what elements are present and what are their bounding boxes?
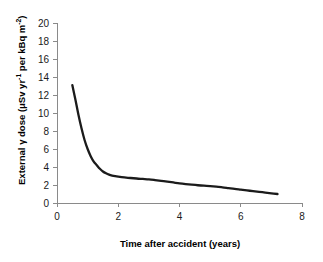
y-tick-label: 2 <box>43 180 49 191</box>
line-chart-canvas: 02468101214161820 02468 <box>0 0 323 262</box>
x-tick-group: 02468 <box>54 203 305 222</box>
y-axis-title: External γ dose (μSv yr-1 per kBq m-2) <box>17 0 27 200</box>
y-axis-title-lead: External γ dose (μSv yr <box>16 80 27 185</box>
y-axis-title-sup-2: -2 <box>15 19 22 25</box>
x-tick-label: 0 <box>54 211 60 222</box>
y-tick-label: 8 <box>43 126 49 137</box>
y-tick-label: 12 <box>38 90 50 101</box>
y-tick-label: 18 <box>38 36 50 47</box>
y-axis-title-middle: per kBq m <box>16 25 27 74</box>
y-axis-title-tail: ) <box>16 15 27 18</box>
x-tick-label: 8 <box>299 211 305 222</box>
y-tick-label: 4 <box>43 162 49 173</box>
y-tick-label: 0 <box>43 198 49 209</box>
y-tick-label: 6 <box>43 144 49 155</box>
y-tick-group: 02468101214161820 <box>38 18 57 209</box>
x-tick-label: 2 <box>115 211 121 222</box>
x-tick-label: 6 <box>238 211 244 222</box>
x-axis-title: Time after accident (years) <box>57 238 303 249</box>
y-tick-label: 20 <box>38 18 50 29</box>
y-axis-title-sup-1: -1 <box>15 74 22 80</box>
y-tick-label: 16 <box>38 54 50 65</box>
x-tick-label: 4 <box>177 211 183 222</box>
y-tick-label: 10 <box>38 108 50 119</box>
y-tick-label: 14 <box>38 72 50 83</box>
chart-figure: 02468101214161820 02468 External γ dose … <box>0 0 323 262</box>
dose-decay-curve <box>72 85 277 194</box>
